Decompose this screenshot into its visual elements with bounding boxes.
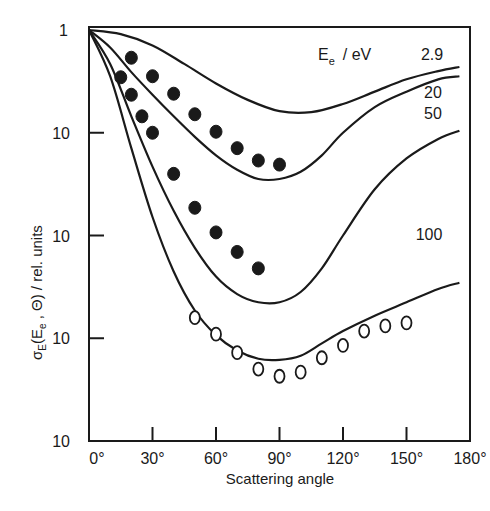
open-data-point: [338, 339, 348, 352]
x-tick-label: 0°: [89, 450, 104, 467]
chart: 110101010 0°30°60°90°120°150°180° Scatte…: [0, 0, 490, 511]
x-tick-label: 120°: [326, 450, 359, 467]
y-axis: 110101010: [52, 22, 104, 450]
curve-20: [89, 30, 459, 180]
open-data-point: [296, 366, 306, 379]
y-tick-label: 10: [52, 125, 70, 142]
filled-data-point: [136, 110, 148, 123]
y-tick-label: 10: [52, 228, 70, 245]
legend-title: Ee/ eV: [318, 46, 372, 67]
open-data-point: [359, 325, 369, 338]
y-title-tail: , Θ) / rel. units: [28, 225, 45, 323]
filled-data-point: [168, 87, 180, 100]
x-axis: 0°30°60°90°120°150°180°: [89, 427, 486, 467]
open-data-point: [190, 311, 200, 324]
filled-data-point: [252, 262, 264, 275]
curve-label-100: 100: [416, 226, 443, 243]
filled-data-point: [115, 71, 127, 84]
filled-data-point: [231, 245, 243, 258]
y-title-part: (E: [28, 329, 45, 344]
filled-data-point: [274, 158, 286, 171]
filled-data-point: [125, 51, 137, 64]
filled-data-point: [189, 201, 201, 214]
x-tick-label: 90°: [267, 450, 291, 467]
curves: [89, 30, 459, 360]
open-data-point: [317, 351, 327, 364]
filled-data-point: [147, 126, 159, 139]
y-tick-label: 10: [52, 330, 70, 347]
curve-label-20: 20: [424, 84, 442, 101]
filled-data-point: [125, 88, 137, 101]
filled-data-point: [147, 70, 159, 83]
legend-unit: / eV: [343, 46, 372, 63]
filled-data-point: [168, 167, 180, 180]
filled-data-point: [252, 154, 264, 167]
curve-label-50: 50: [424, 105, 442, 122]
open-data-point: [402, 316, 412, 329]
x-tick-label: 30°: [140, 450, 164, 467]
open-data-point: [253, 363, 263, 376]
filled-data-point: [231, 142, 243, 155]
filled-data-point: [189, 108, 201, 121]
open-data-point: [232, 346, 242, 359]
curve-2.9: [89, 30, 459, 113]
curve-label-2.9: 2.9: [421, 46, 443, 63]
y-tick-label: 10: [52, 433, 70, 450]
legend-e-sub: e: [329, 55, 335, 67]
filled-data-point: [210, 226, 222, 239]
y-axis-title: σE(Ee , Θ) / rel. units: [28, 225, 48, 360]
y-tick-label: 1: [59, 22, 68, 39]
x-tick-label: 150°: [390, 450, 423, 467]
x-tick-label: 60°: [204, 450, 228, 467]
x-axis-title: Scattering angle: [226, 470, 334, 487]
filled-data-point: [210, 125, 222, 138]
x-tick-label: 180°: [453, 450, 486, 467]
open-data-point: [380, 319, 390, 332]
open-data-point: [211, 328, 221, 341]
legend-e: E: [318, 46, 329, 63]
open-data-point: [275, 370, 285, 383]
